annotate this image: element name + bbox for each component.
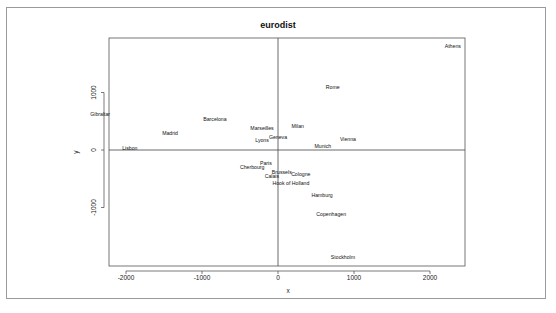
city-label: Stockholm xyxy=(331,254,355,260)
city-label: Milan xyxy=(292,123,305,129)
city-label: Hook of Holland xyxy=(272,180,309,186)
x-tick-label: 0 xyxy=(276,274,280,281)
city-label: Barcelona xyxy=(203,116,226,122)
city-label: Cherbourg xyxy=(240,164,265,170)
city-label: Copenhagen xyxy=(316,211,346,217)
city-label: Cologne xyxy=(291,171,310,177)
plot-area-border xyxy=(109,38,465,266)
city-label: Geneva xyxy=(269,134,287,140)
y-tick-label: 1000 xyxy=(90,85,97,100)
x-tick-label: -1000 xyxy=(194,274,211,281)
y-axis-label: y xyxy=(72,150,80,154)
city-label: Lisbon xyxy=(122,145,137,151)
x-tick-label: 2000 xyxy=(423,274,438,281)
city-label: Gibraltar xyxy=(90,111,110,117)
city-label: Marseilles xyxy=(250,125,274,131)
y-tick-label: 0 xyxy=(90,148,97,152)
scatter-plot: eurodist-2000-1000010002000x-100001000yA… xyxy=(0,0,556,313)
city-label: Rome xyxy=(326,84,340,90)
city-label: Calais xyxy=(265,173,280,179)
x-tick-label: -2000 xyxy=(118,274,135,281)
x-axis-label: x xyxy=(286,287,290,294)
city-label: Hamburg xyxy=(311,192,332,198)
city-label: Madrid xyxy=(162,130,178,136)
y-tick-label: -1000 xyxy=(90,199,97,216)
chart-title: eurodist xyxy=(260,20,296,30)
city-label: Lyons xyxy=(255,137,269,143)
city-label: Athens xyxy=(445,43,462,49)
city-label: Vienna xyxy=(340,136,356,142)
x-tick-label: 1000 xyxy=(347,274,362,281)
city-label: Munich xyxy=(314,143,331,149)
